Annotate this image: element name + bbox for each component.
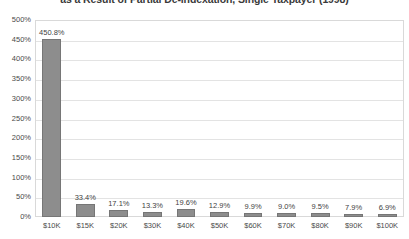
x-axis-tick-label: $40K [169, 221, 203, 230]
bar-group: 9.9% [236, 20, 270, 217]
x-axis: $10K$15K$20K$30K$40K$50K$60K$70K$80K$90K… [35, 221, 404, 235]
bar [311, 213, 330, 217]
bar [143, 212, 162, 217]
y-axis-tick-label: 250% [0, 115, 31, 123]
bar [378, 214, 397, 217]
x-axis-tick-label: $15K [69, 221, 103, 230]
bar [109, 210, 128, 217]
bar [277, 213, 296, 217]
y-axis-tick-label: 100% [0, 174, 31, 182]
y-axis-tick-label: 200% [0, 134, 31, 142]
x-axis-tick-label: $80K [303, 221, 337, 230]
bar [344, 214, 363, 217]
bar-group: 12.9% [203, 20, 237, 217]
x-axis-tick-label: $60K [236, 221, 270, 230]
bar-group: 17.1% [102, 20, 136, 217]
x-axis-tick-label: $90K [337, 221, 371, 230]
x-axis-tick-label: $20K [102, 221, 136, 230]
bar [210, 212, 229, 217]
bar-chart: as a Result of Partial De-indexation, Si… [0, 0, 409, 239]
bar-group: 7.9% [337, 20, 371, 217]
bars-layer: 450.8%33.4%17.1%13.3%19.6%12.9%9.9%9.0%9… [35, 20, 404, 217]
x-axis-tick-label: $10K [35, 221, 69, 230]
y-axis-tick-label: 0% [0, 213, 31, 221]
bar-value-label: 6.9% [354, 203, 409, 212]
bar-group: 13.3% [136, 20, 170, 217]
x-axis-tick-label: $50K [203, 221, 237, 230]
bar [177, 209, 196, 217]
y-axis-tick-label: 500% [0, 16, 31, 24]
bar-group: 33.4% [69, 20, 103, 217]
bar-group: 9.0% [270, 20, 304, 217]
y-axis-tick-label: 400% [0, 55, 31, 63]
bar-group: 19.6% [169, 20, 203, 217]
y-axis-tick-label: 350% [0, 75, 31, 83]
y-axis-tick-label: 300% [0, 95, 31, 103]
bar [244, 213, 263, 217]
y-axis-tick-label: 150% [0, 154, 31, 162]
bar-group: 6.9% [370, 20, 404, 217]
chart-title: as a Result of Partial De-indexation, Si… [0, 0, 409, 6]
y-axis-tick-label: 50% [0, 193, 31, 201]
x-axis-tick-label: $70K [270, 221, 304, 230]
x-axis-tick-label: $30K [136, 221, 170, 230]
bar-group: 9.5% [303, 20, 337, 217]
bar-group: 450.8% [35, 20, 69, 217]
bar [42, 39, 61, 217]
x-axis-tick-label: $100K [370, 221, 404, 230]
